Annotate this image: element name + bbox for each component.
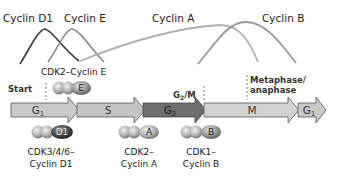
cyclin-b-label: Cyclin B bbox=[262, 12, 304, 24]
cyclin-d1-label: Cyclin D1 bbox=[3, 12, 53, 24]
svg-text:A: A bbox=[146, 127, 153, 137]
phase-arrow-g1: G1 bbox=[11, 97, 79, 123]
cdk346-label-line1: CDK3/4/6– bbox=[28, 147, 75, 157]
phase-arrow-m: M bbox=[204, 97, 299, 123]
cell-cycle-diagram: Cyclin D1 Cyclin E Cyclin A Cyclin B CDK… bbox=[0, 0, 337, 178]
cdk346-cyclin-d1-complex: D1 bbox=[32, 125, 74, 139]
svg-text:S: S bbox=[105, 104, 112, 116]
start-checkpoint-label: Start bbox=[8, 84, 32, 94]
cyclin-a-curve bbox=[80, 25, 258, 62]
phase-arrow-g1-next: G1 bbox=[298, 97, 326, 123]
cyclin-a-label: Cyclin A bbox=[152, 12, 195, 24]
cdk346-label-line2: Cyclin D1 bbox=[30, 159, 73, 169]
cdk1-cyclin-b-complex: B bbox=[181, 125, 222, 139]
cyclin-b-curve bbox=[198, 22, 296, 64]
svg-text:B: B bbox=[208, 127, 214, 137]
svg-text:M: M bbox=[247, 104, 256, 116]
metaphase-label-line2: anaphase bbox=[250, 85, 296, 95]
cdk2-cyclin-a-label-line2: Cyclin A bbox=[121, 159, 158, 169]
phase-arrow-g2: G2 bbox=[143, 97, 206, 123]
svg-text:E: E bbox=[78, 83, 84, 93]
cdk2-cyclin-a-label-line1: CDK2– bbox=[124, 147, 154, 157]
cdk2-cyclin-e-label: CDK2–Cyclin E bbox=[41, 67, 106, 77]
cdk1-cyclin-b-label-line1: CDK1– bbox=[186, 147, 216, 157]
cdk2-cyclin-e-complex: E bbox=[53, 81, 92, 95]
metaphase-label-line1: Metaphase/ bbox=[250, 75, 307, 85]
cyclin-e-label: Cyclin E bbox=[64, 12, 106, 24]
cdk2-cyclin-a-complex: A bbox=[119, 125, 160, 139]
svg-text:D1: D1 bbox=[56, 127, 69, 137]
cdk1-cyclin-b-label-line2: Cyclin B bbox=[183, 159, 219, 169]
cyclin-e-curve bbox=[48, 29, 104, 62]
phase-arrow-s: S bbox=[77, 97, 145, 123]
g2m-checkpoint-label: G2/M bbox=[173, 90, 196, 101]
